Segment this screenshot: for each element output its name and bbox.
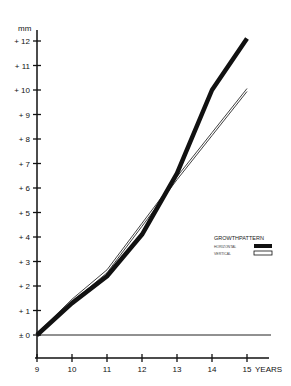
y-tick-label: ± 0 xyxy=(19,331,31,340)
x-tick-label: 10 xyxy=(68,365,77,374)
y-tick-label: + 2 xyxy=(19,282,31,291)
series-horizontal-line xyxy=(37,39,247,335)
y-tick-label: + 10 xyxy=(14,86,30,95)
y-tick-label: + 1 xyxy=(19,307,31,316)
x-tick-label: 13 xyxy=(173,365,182,374)
y-tick-label: + 9 xyxy=(19,111,31,120)
legend-title: GROWTHPATTERN xyxy=(214,235,264,241)
legend-swatch-vertical xyxy=(254,251,272,255)
y-tick-label: + 6 xyxy=(19,184,31,193)
x-tick-label: 14 xyxy=(208,365,217,374)
y-tick-label: + 8 xyxy=(19,135,31,144)
legend-label-vertical: VERTICAL xyxy=(214,252,231,256)
y-tick-label: + 12 xyxy=(14,37,30,46)
y-tick-label: + 5 xyxy=(19,209,31,218)
y-tick-label: + 4 xyxy=(19,233,31,242)
x-tick-label: 12 xyxy=(138,365,147,374)
legend-swatch-horizontal xyxy=(254,244,272,248)
y-tick-label: + 7 xyxy=(19,160,31,169)
series-vertical-line xyxy=(37,89,247,334)
growth-chart: mm± 0+ 1+ 2+ 3+ 4+ 5+ 6+ 7+ 8+ 9+ 10+ 11… xyxy=(0,0,291,386)
y-axis-unit: mm xyxy=(18,24,32,33)
y-tick-label: + 3 xyxy=(19,258,31,267)
x-tick-label: 11 xyxy=(103,365,112,374)
y-tick-label: + 11 xyxy=(15,62,31,71)
x-tick-label: 15 xyxy=(243,365,252,374)
x-axis-unit: YEARS xyxy=(255,365,282,374)
legend-label-horizontal: HORIZONTAL xyxy=(214,245,236,249)
x-tick-label: 9 xyxy=(35,365,40,374)
